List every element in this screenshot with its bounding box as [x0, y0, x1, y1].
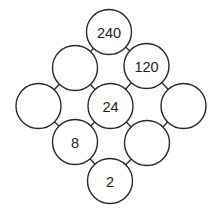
circle-left — [16, 84, 61, 129]
node-label-bottom: 2 — [106, 174, 114, 190]
circle-nodes: 2401202482 — [16, 10, 206, 204]
node-lower-right — [125, 121, 170, 166]
circle-upper-left — [53, 46, 98, 91]
node-top: 240 — [87, 10, 132, 55]
circle-lower-right — [125, 121, 170, 166]
node-upper-right: 120 — [124, 44, 169, 89]
node-label-center: 24 — [102, 99, 118, 115]
node-left — [16, 84, 61, 129]
circle-right — [161, 84, 206, 129]
node-lower-left: 8 — [53, 120, 98, 165]
node-center: 24 — [88, 84, 133, 129]
node-label-top: 240 — [97, 25, 121, 41]
node-label-lower-left: 8 — [71, 135, 79, 151]
node-bottom: 2 — [88, 159, 133, 204]
circle-diagram: 2401202482 — [0, 0, 217, 222]
node-label-upper-right: 120 — [134, 59, 158, 75]
node-upper-left — [53, 46, 98, 91]
node-right — [161, 84, 206, 129]
